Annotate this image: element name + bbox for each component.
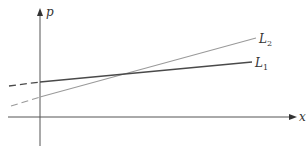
- x-axis-arrowhead-icon: [289, 114, 297, 120]
- p-axis-arrowhead-icon: [37, 8, 43, 16]
- line-l2-dashed-extension: [11, 97, 40, 106]
- line-l2-label: L2: [258, 32, 272, 48]
- line-l2: [40, 38, 256, 97]
- line-l1-dashed-extension: [9, 82, 40, 86]
- line-l1-label: L1: [254, 56, 268, 72]
- diagram-canvas: p x L2 L1: [0, 0, 306, 150]
- p-axis-label: p: [46, 5, 54, 19]
- line-l1: [40, 62, 252, 82]
- x-axis-label: x: [299, 110, 306, 124]
